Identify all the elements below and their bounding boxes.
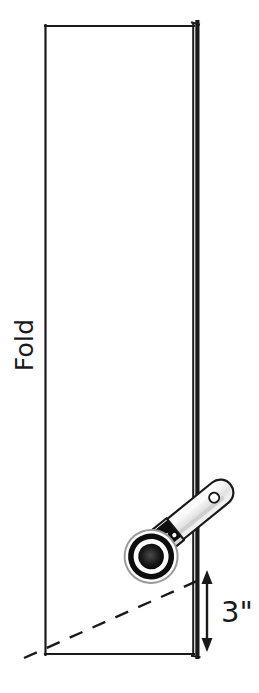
fabric-fold-bottom-cap	[192, 656, 200, 657]
measurement-label: 3"	[221, 595, 253, 629]
fold-cut-diagram: Fold 3"	[0, 0, 259, 693]
three-inch-dimension	[202, 570, 213, 652]
diagram-root: Fold 3"	[0, 0, 259, 693]
dimension-arrowhead-bottom-icon	[202, 638, 213, 652]
fold-label: Fold	[10, 319, 39, 371]
dimension-arrowhead-top-icon	[202, 570, 213, 584]
